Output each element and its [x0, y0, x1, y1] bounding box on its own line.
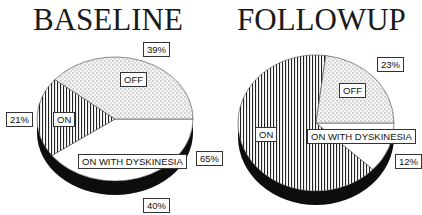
- baseline-on-percent: 21%: [6, 112, 33, 127]
- baseline-on-label: ON: [53, 112, 75, 127]
- followup-off-label: OFF: [339, 83, 366, 98]
- baseline-title: BASELINE: [33, 2, 183, 38]
- followup-on-label: ON: [255, 127, 277, 142]
- baseline-dyskinesia-label: ON WITH DYSKINESIA: [78, 154, 187, 169]
- followup-on-percent: 65%: [196, 151, 223, 166]
- baseline-off-label: OFF: [120, 72, 147, 87]
- followup-dyskinesia-percent: 12%: [395, 154, 422, 169]
- baseline-dyskinesia-percent: 40%: [143, 198, 170, 213]
- followup-title: FOLLOWUP: [237, 2, 406, 38]
- followup-dyskinesia-label: ON WITH DYSKINESIA: [307, 129, 416, 144]
- followup-off-percent: 23%: [377, 57, 404, 72]
- baseline-off-percent: 39%: [143, 42, 170, 57]
